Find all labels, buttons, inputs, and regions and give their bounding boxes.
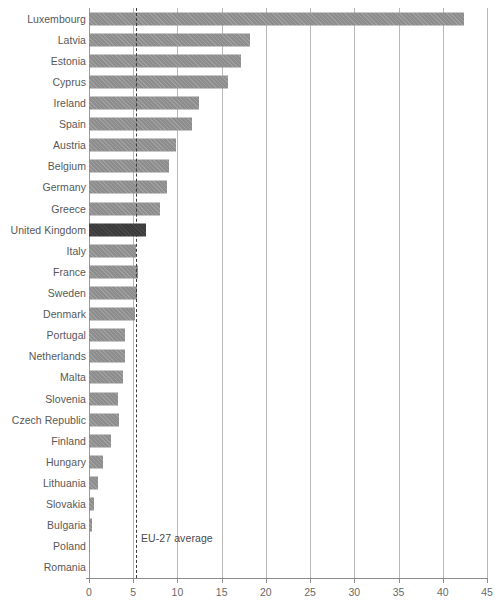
eu-27-average-line bbox=[136, 8, 137, 578]
bar-poland bbox=[89, 540, 90, 553]
bar-slovakia bbox=[89, 498, 94, 511]
bar-row: Luxembourg bbox=[89, 8, 487, 29]
category-label-united-kingdom: United Kingdom bbox=[11, 224, 86, 236]
category-label-latvia: Latvia bbox=[58, 34, 86, 46]
bar-belgium bbox=[89, 160, 169, 173]
bar-chart: LuxembourgLatviaEstoniaCyprusIrelandSpai… bbox=[0, 0, 498, 611]
bar-row: Greece bbox=[89, 198, 487, 219]
bar-row: Italy bbox=[89, 240, 487, 261]
x-tick-mark-15 bbox=[222, 578, 223, 583]
category-label-estonia: Estonia bbox=[51, 55, 86, 67]
bar-row: Lithuania bbox=[89, 472, 487, 493]
x-tick-label-20: 20 bbox=[260, 586, 272, 598]
bar-slovenia bbox=[89, 392, 118, 405]
bar-row: Latvia bbox=[89, 29, 487, 50]
category-label-slovakia: Slovakia bbox=[46, 498, 86, 510]
bar-luxembourg bbox=[89, 12, 464, 25]
category-label-italy: Italy bbox=[66, 245, 86, 257]
category-label-poland: Poland bbox=[53, 540, 86, 552]
bar-hungary bbox=[89, 455, 103, 468]
category-label-sweden: Sweden bbox=[48, 287, 86, 299]
category-label-czech-republic: Czech Republic bbox=[12, 414, 86, 426]
x-tick-label-0: 0 bbox=[86, 586, 92, 598]
category-label-cyprus: Cyprus bbox=[52, 76, 86, 88]
bar-row: Slovakia bbox=[89, 494, 487, 515]
bar-row: Cyprus bbox=[89, 71, 487, 92]
category-label-finland: Finland bbox=[51, 435, 86, 447]
x-tick-label-10: 10 bbox=[172, 586, 184, 598]
x-tick-label-35: 35 bbox=[393, 586, 405, 598]
x-tick-mark-45 bbox=[487, 578, 488, 583]
x-tick-label-40: 40 bbox=[437, 586, 449, 598]
bar-france bbox=[89, 265, 138, 278]
bar-sweden bbox=[89, 286, 137, 299]
x-tick-label-45: 45 bbox=[481, 586, 493, 598]
x-tick-label-15: 15 bbox=[216, 586, 228, 598]
bar-latvia bbox=[89, 33, 250, 46]
category-label-denmark: Denmark bbox=[43, 308, 86, 320]
bar-austria bbox=[89, 139, 176, 152]
category-label-austria: Austria bbox=[53, 139, 86, 151]
x-tick-mark-0 bbox=[89, 578, 90, 583]
eu-27-average-label: EU-27 average bbox=[141, 532, 213, 544]
category-label-france: France bbox=[53, 266, 86, 278]
bar-row: Finland bbox=[89, 430, 487, 451]
bar-finland bbox=[89, 434, 111, 447]
bar-row: Slovenia bbox=[89, 388, 487, 409]
bar-portugal bbox=[89, 329, 125, 342]
bar-ireland bbox=[89, 96, 199, 109]
category-label-slovenia: Slovenia bbox=[45, 393, 86, 405]
category-label-spain: Spain bbox=[59, 118, 86, 130]
bar-bulgaria bbox=[89, 519, 92, 532]
category-label-romania: Romania bbox=[44, 561, 86, 573]
category-label-greece: Greece bbox=[51, 203, 86, 215]
category-label-belgium: Belgium bbox=[48, 160, 86, 172]
x-tick-mark-35 bbox=[399, 578, 400, 583]
category-label-bulgaria: Bulgaria bbox=[47, 519, 86, 531]
bar-malta bbox=[89, 371, 123, 384]
bar-netherlands bbox=[89, 350, 125, 363]
bar-czech-republic bbox=[89, 413, 119, 426]
category-label-luxembourg: Luxembourg bbox=[27, 13, 86, 25]
bar-italy bbox=[89, 244, 136, 257]
bar-lithuania bbox=[89, 476, 98, 489]
x-tick-mark-5 bbox=[133, 578, 134, 583]
category-label-ireland: Ireland bbox=[54, 97, 86, 109]
bar-row: Hungary bbox=[89, 451, 487, 472]
bar-row: Estonia bbox=[89, 50, 487, 71]
bar-row: Romania bbox=[89, 557, 487, 578]
category-label-hungary: Hungary bbox=[46, 456, 86, 468]
category-label-germany: Germany bbox=[42, 181, 86, 193]
category-label-portugal: Portugal bbox=[46, 329, 86, 341]
bar-greece bbox=[89, 202, 160, 215]
bar-row: Netherlands bbox=[89, 346, 487, 367]
bar-spain bbox=[89, 118, 192, 131]
bar-row: France bbox=[89, 261, 487, 282]
bar-denmark bbox=[89, 308, 135, 321]
bar-romania bbox=[89, 561, 90, 574]
bar-estonia bbox=[89, 54, 241, 67]
category-label-lithuania: Lithuania bbox=[43, 477, 86, 489]
bar-cyprus bbox=[89, 75, 228, 88]
bar-row: United Kingdom bbox=[89, 219, 487, 240]
x-tick-label-25: 25 bbox=[304, 586, 316, 598]
bar-united-kingdom bbox=[89, 223, 146, 236]
x-tick-mark-25 bbox=[310, 578, 311, 583]
bar-row: Ireland bbox=[89, 92, 487, 113]
plot-area: LuxembourgLatviaEstoniaCyprusIrelandSpai… bbox=[89, 8, 487, 578]
x-tick-mark-20 bbox=[266, 578, 267, 583]
x-tick-mark-40 bbox=[443, 578, 444, 583]
category-label-malta: Malta bbox=[60, 371, 86, 383]
category-label-netherlands: Netherlands bbox=[29, 350, 86, 362]
x-axis-line bbox=[86, 578, 488, 579]
bar-row: Denmark bbox=[89, 304, 487, 325]
x-tick-mark-10 bbox=[177, 578, 178, 583]
bar-row: Belgium bbox=[89, 156, 487, 177]
bar-row: Germany bbox=[89, 177, 487, 198]
x-tick-label-5: 5 bbox=[130, 586, 136, 598]
bar-row: Spain bbox=[89, 114, 487, 135]
bar-row: Sweden bbox=[89, 282, 487, 303]
gridline-45 bbox=[487, 8, 488, 578]
bar-row: Portugal bbox=[89, 325, 487, 346]
bar-row: Malta bbox=[89, 367, 487, 388]
